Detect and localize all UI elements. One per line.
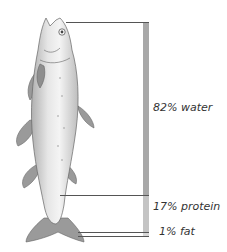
- protein-fat-leader-line: [78, 232, 149, 233]
- fish-composition-diagram: 82% water 17% protein 1% fat: [0, 0, 227, 252]
- water-protein-leader-line: [60, 195, 149, 196]
- protein-label: 17% protein: [153, 200, 220, 213]
- fish-illustration-icon: [0, 0, 227, 252]
- water-label: 82% water: [153, 101, 212, 114]
- bottom-leader-line: [78, 236, 149, 237]
- water-bar-segment: [143, 22, 149, 195]
- fat-label: 1% fat: [159, 225, 195, 238]
- protein-bar-segment: [143, 195, 149, 232]
- top-leader-line: [66, 22, 149, 23]
